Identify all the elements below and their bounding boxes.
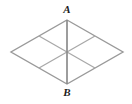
vertex-label-a: A bbox=[57, 4, 77, 15]
rhombus-figure: A B bbox=[0, 0, 132, 104]
vertex-label-b: B bbox=[57, 87, 77, 98]
